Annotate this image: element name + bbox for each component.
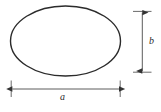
figure-canvas (0, 0, 161, 112)
dimension-label-a: a (60, 92, 65, 102)
dimension-a-group (11, 81, 120, 98)
dimension-label-b: b (149, 36, 154, 46)
ellipse-outline (11, 6, 121, 76)
ellipse-shape (11, 6, 121, 76)
ellipse-dimension-figure: a b (0, 0, 161, 112)
